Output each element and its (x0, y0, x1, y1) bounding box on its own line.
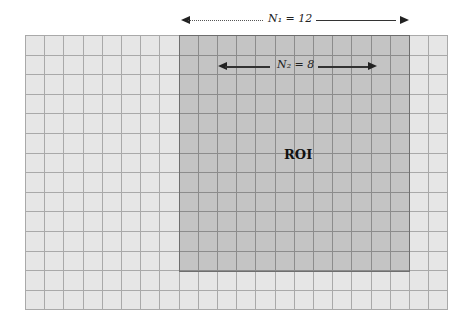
pixel (372, 271, 391, 291)
pixel (256, 291, 275, 311)
pixel (295, 291, 314, 311)
pixel (410, 36, 429, 56)
pixel (160, 173, 179, 193)
pixel (64, 75, 83, 95)
pixel (410, 154, 429, 174)
pixel (45, 193, 64, 213)
roi-label: ROI (284, 147, 312, 162)
pixel (429, 154, 448, 174)
pixel (26, 114, 45, 134)
pixel (103, 154, 122, 174)
pixel (429, 271, 448, 291)
pixel (429, 232, 448, 252)
pixel (103, 56, 122, 76)
pixel (141, 252, 160, 272)
pixel (256, 271, 275, 291)
pixel (45, 271, 64, 291)
pixel (26, 212, 45, 232)
pixel (160, 114, 179, 134)
pixel (429, 173, 448, 193)
pixel (26, 291, 45, 311)
pixel (429, 193, 448, 213)
pixel (26, 252, 45, 272)
pixel (141, 56, 160, 76)
pixel (45, 291, 64, 311)
pixel (141, 212, 160, 232)
pixel (429, 212, 448, 232)
pixel (64, 193, 83, 213)
pixel (314, 271, 333, 291)
pixel (122, 75, 141, 95)
pixel (160, 193, 179, 213)
pixel (160, 134, 179, 154)
pixel (218, 291, 237, 311)
pixel (429, 114, 448, 134)
pixel (64, 114, 83, 134)
pixel (429, 56, 448, 76)
pixel (410, 114, 429, 134)
pixel (333, 291, 352, 311)
pixel (122, 134, 141, 154)
pixel (276, 271, 295, 291)
pixel (410, 173, 429, 193)
pixel (103, 134, 122, 154)
pixel (410, 291, 429, 311)
pixel (160, 232, 179, 252)
pixel (122, 193, 141, 213)
pixel (84, 232, 103, 252)
pixel (84, 56, 103, 76)
pixel (160, 291, 179, 311)
pixel (237, 271, 256, 291)
pixel (429, 95, 448, 115)
pixel (64, 95, 83, 115)
pixel (410, 193, 429, 213)
pixel (199, 291, 218, 311)
pixel (391, 271, 410, 291)
pixel (122, 36, 141, 56)
pixel (103, 114, 122, 134)
pixel (103, 75, 122, 95)
pixel (103, 252, 122, 272)
pixel (410, 134, 429, 154)
pixel (122, 56, 141, 76)
pixel (429, 36, 448, 56)
pixel (64, 291, 83, 311)
pixel (84, 212, 103, 232)
pixel (141, 75, 160, 95)
pixel (160, 154, 179, 174)
pixel (84, 134, 103, 154)
pixel (45, 232, 64, 252)
pixel (122, 95, 141, 115)
pixel (122, 232, 141, 252)
pixel (141, 271, 160, 291)
pixel (26, 193, 45, 213)
pixel (429, 75, 448, 95)
pixel (352, 291, 371, 311)
pixel (180, 271, 199, 291)
pixel (122, 154, 141, 174)
pixel (160, 212, 179, 232)
pixel (160, 95, 179, 115)
pixel (122, 114, 141, 134)
pixel (391, 291, 410, 311)
pixel (84, 154, 103, 174)
pixel (160, 252, 179, 272)
pixel (84, 252, 103, 272)
pixel (64, 154, 83, 174)
pixel (429, 252, 448, 272)
pixel (26, 232, 45, 252)
pixel (410, 75, 429, 95)
pixel (160, 271, 179, 291)
pixel (45, 252, 64, 272)
pixel (410, 56, 429, 76)
pixel (84, 36, 103, 56)
pixel (103, 36, 122, 56)
pixel (26, 154, 45, 174)
pixel (26, 134, 45, 154)
pixel (122, 291, 141, 311)
pixel (141, 36, 160, 56)
dimension-line (318, 66, 368, 68)
pixel (64, 36, 83, 56)
pixel (26, 56, 45, 76)
pixel (45, 134, 64, 154)
